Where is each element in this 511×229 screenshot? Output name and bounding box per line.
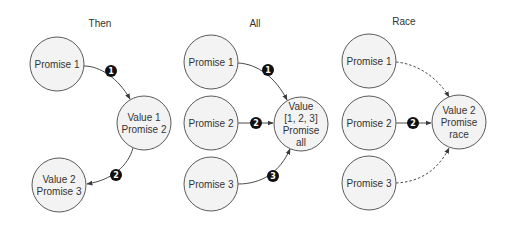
node-label-line: Value 2 <box>442 105 476 116</box>
node-label-line: all <box>296 137 306 148</box>
node-label-line: Promise 3 <box>188 179 233 190</box>
badge-number: 1 <box>108 67 114 76</box>
node-label-line: Promise 2 <box>188 118 233 129</box>
node-race-p3: Promise 3 <box>342 156 396 210</box>
badge-number: 1 <box>265 66 271 75</box>
node-race-result: Value 2Promiserace <box>432 95 486 149</box>
node-label-line: Value <box>289 101 314 112</box>
step-badge-all-3: 3 <box>267 170 279 182</box>
node-label-line: Promise <box>283 125 320 136</box>
node-label-line: Promise 1 <box>346 56 391 67</box>
badge-number: 2 <box>113 171 119 180</box>
node-label-line: race <box>449 129 469 140</box>
edge-all-p3-to-result <box>238 149 290 184</box>
node-all-p1: Promise 1 <box>184 35 238 89</box>
edge-race-p1-to-result <box>396 62 449 97</box>
step-badge-race-2: 2 <box>407 117 419 129</box>
node-label-line: Promise 1 <box>188 57 233 68</box>
badge-number: 3 <box>270 172 276 181</box>
node-label-line: [1, 2, 3] <box>284 113 318 124</box>
promise-diagram: Then All Race Promise 1Value 1Promise 2V… <box>0 0 511 229</box>
panel-title-race: Race <box>392 16 416 27</box>
node-all-p2: Promise 2 <box>184 96 238 150</box>
badge-number: 2 <box>410 119 416 128</box>
edge-then-v1-to-v2 <box>87 148 133 184</box>
node-label-line: Promise 3 <box>36 186 81 197</box>
node-label-line: Promise <box>441 117 478 128</box>
step-badge-all-1: 1 <box>262 64 274 76</box>
node-label-line: Value 1 <box>127 112 161 123</box>
panel-title-all: All <box>249 18 260 29</box>
panel-title-then: Then <box>89 18 112 29</box>
node-then-v2: Value 2Promise 3 <box>32 158 86 212</box>
node-then-p1: Promise 1 <box>30 37 84 91</box>
edge-race-p3-to-result <box>396 148 449 183</box>
node-all-result: Value[1, 2, 3]Promiseall <box>274 97 328 151</box>
node-then-v1: Value 1Promise 2 <box>117 96 171 150</box>
node-label-line: Promise 3 <box>346 178 391 189</box>
node-all-p3: Promise 3 <box>184 157 238 211</box>
node-race-p1: Promise 1 <box>342 34 396 88</box>
node-label-line: Promise 2 <box>121 124 166 135</box>
node-label-line: Promise 2 <box>346 118 391 129</box>
node-label-line: Value 2 <box>42 174 76 185</box>
step-badge-all-2: 2 <box>250 117 262 129</box>
node-race-p2: Promise 2 <box>342 96 396 150</box>
badge-number: 2 <box>253 119 259 128</box>
step-badge-then-2: 2 <box>110 169 122 181</box>
node-label-line: Promise 1 <box>34 59 79 70</box>
step-badge-then-1: 1 <box>105 65 117 77</box>
